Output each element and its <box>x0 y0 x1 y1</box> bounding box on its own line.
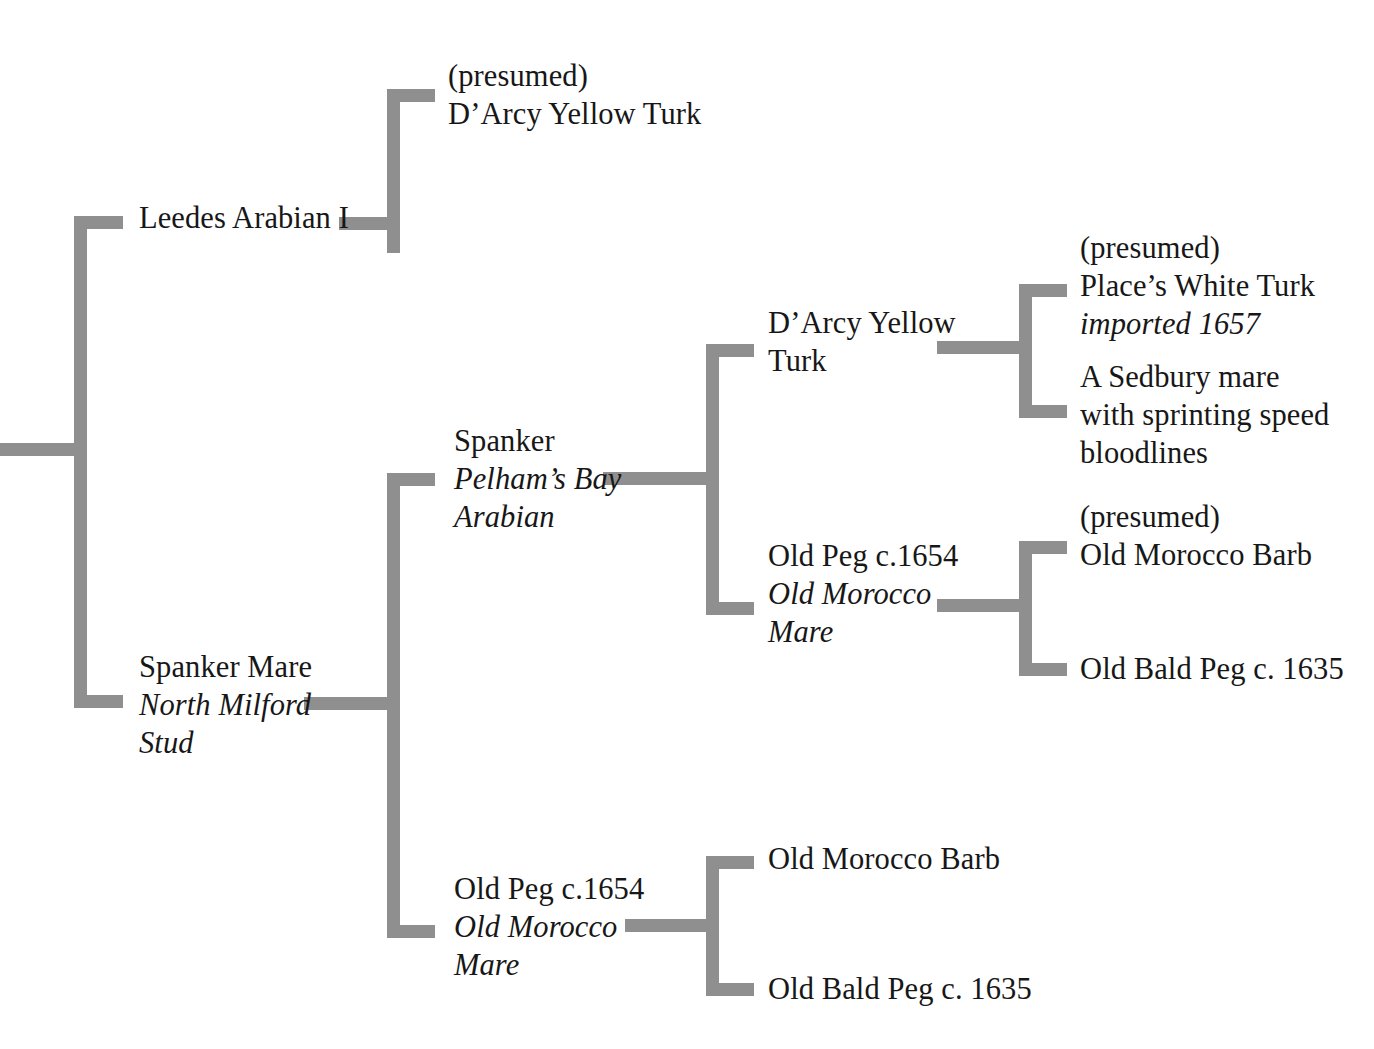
node-darcy-yellow-turk-mid: D’Arcy Yellow Turk <box>768 304 956 380</box>
node-label-line: Leedes Arabian I <box>139 199 349 237</box>
node-label-line: Old Morocco Barb <box>1080 536 1312 574</box>
node-label-line: Old Bald Peg c. 1635 <box>1080 650 1344 688</box>
node-old-bald-peg-mid: Old Bald Peg c. 1635 <box>1080 650 1344 688</box>
connector-root-spine <box>74 216 87 708</box>
connector-oldpeg-mid-arm-top <box>1019 541 1067 554</box>
node-spanker: Spanker Pelham’s Bay Arabian <box>454 422 622 536</box>
node-label-line: (presumed) <box>1080 229 1315 267</box>
node-places-white-turk: (presumed) Place’s White Turk imported 1… <box>1080 229 1315 343</box>
node-old-morocco-barb-presumed: (presumed) Old Morocco Barb <box>1080 498 1312 574</box>
connector-darcy-arm-top <box>1019 284 1067 297</box>
node-sublabel-line: Pelham’s Bay <box>454 460 622 498</box>
node-label-line: Place’s White Turk <box>1080 267 1315 305</box>
connector-oldpeg-bottom-arm-bottom <box>706 983 754 996</box>
connector-oldpeg-mid-arm-bottom <box>1019 663 1067 676</box>
node-sublabel-line: Mare <box>768 613 958 651</box>
node-old-bald-peg-bottom: Old Bald Peg c. 1635 <box>768 970 1032 1008</box>
connector-leedes-arm-top <box>387 89 435 102</box>
node-label-line: (presumed) <box>448 57 701 95</box>
node-label-line: bloodlines <box>1080 434 1329 472</box>
node-label-line: Old Peg c.1654 <box>768 537 958 575</box>
node-label-line: D’Arcy Yellow Turk <box>448 95 701 133</box>
node-sublabel-line: Stud <box>139 724 312 762</box>
node-sublabel-line: Old Morocco <box>454 908 644 946</box>
node-sublabel-line: Arabian <box>454 498 622 536</box>
node-label-line: (presumed) <box>1080 498 1312 536</box>
node-sublabel-line: North Milford <box>139 686 312 724</box>
node-sublabel-line: Old Morocco <box>768 575 958 613</box>
node-old-morocco-barb-bottom: Old Morocco Barb <box>768 840 1000 878</box>
node-sedbury-mare: A Sedbury mare with sprinting speed bloo… <box>1080 358 1329 472</box>
node-leedes-arabian-i: Leedes Arabian I <box>139 199 349 237</box>
node-label-line: with sprinting speed <box>1080 396 1329 434</box>
connector-spanker-arm-top <box>706 344 754 357</box>
connector-spankermare-arm-bottom <box>387 925 435 938</box>
node-spanker-mare: Spanker Mare North Milford Stud <box>139 648 312 762</box>
node-label-line: Spanker <box>454 422 622 460</box>
connector-darcy-arm-bottom <box>1019 405 1067 418</box>
pedigree-chart: (presumed) D’Arcy Yellow Turk Leedes Ara… <box>0 0 1374 1049</box>
node-label-line: Old Peg c.1654 <box>454 870 644 908</box>
connector-spankermare-arm-top <box>387 473 435 486</box>
connector-root-arm-bottom <box>74 695 123 708</box>
connector-spanker-arm-bottom <box>706 602 754 615</box>
node-sublabel-line: Mare <box>454 946 644 984</box>
node-sublabel-line: imported 1657 <box>1080 305 1315 343</box>
node-label-line: D’Arcy Yellow <box>768 304 956 342</box>
node-old-peg-bottom: Old Peg c.1654 Old Morocco Mare <box>454 870 644 984</box>
connector-oldpeg-bottom-arm-top <box>706 856 754 869</box>
node-label-line: Turk <box>768 342 956 380</box>
node-label-line: A Sedbury mare <box>1080 358 1329 396</box>
connector-root-arm-top <box>74 216 123 229</box>
node-label-line: Old Morocco Barb <box>768 840 1000 878</box>
node-old-peg-mid: Old Peg c.1654 Old Morocco Mare <box>768 537 958 651</box>
node-label-line: Spanker Mare <box>139 648 312 686</box>
connector-root-stem <box>0 443 87 456</box>
node-darcy-yellow-turk-top: (presumed) D’Arcy Yellow Turk <box>448 57 701 133</box>
node-label-line: Old Bald Peg c. 1635 <box>768 970 1032 1008</box>
connector-spankermare-stem <box>304 697 400 710</box>
